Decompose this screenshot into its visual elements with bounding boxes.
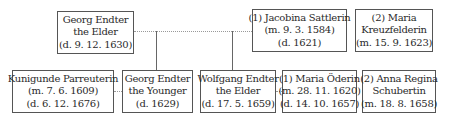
person-marriage-date: (m. 15. 9. 1623) bbox=[356, 37, 432, 50]
person-name: (1) Jacobina Sattlerin bbox=[249, 12, 351, 25]
person-name: Wolfgang Endter bbox=[197, 73, 278, 86]
person-dates: (d. 1629) bbox=[136, 98, 179, 111]
person-marriage-date: (m. 28. 11. 1620) bbox=[278, 85, 360, 98]
person-title: the Elder bbox=[73, 26, 117, 39]
person-title: the Younger bbox=[129, 85, 187, 98]
person-name: Georg Endter bbox=[63, 14, 129, 27]
person-box-maria-kreuzfelderin: (2) Maria Kreuzfelderin (m. 15. 9. 1623) bbox=[355, 9, 433, 52]
person-marriage-date: (m. 7. 6. 1609) bbox=[28, 85, 98, 98]
person-title: the Elder bbox=[216, 85, 260, 98]
person-marriage-date: (m. 9. 3. 1584) bbox=[264, 24, 334, 37]
person-name: (2) Maria bbox=[372, 12, 417, 25]
person-death-date: (d. 6. 12. 1676) bbox=[26, 98, 99, 111]
person-name-cont: Kreuzfelderin bbox=[361, 24, 427, 37]
person-death-date: (d. 1621) bbox=[278, 37, 321, 50]
person-death-date: (d. 14. 10. 1657) bbox=[280, 98, 359, 111]
person-box-kunigunde-parreuterin: Kunigunde Parreuterin (m. 7. 6. 1609) (d… bbox=[12, 70, 114, 113]
marriage-line-kunigunde-georg-younger bbox=[114, 91, 122, 92]
person-box-jacobina-sattlerin: (1) Jacobina Sattlerin (m. 9. 3. 1584) (… bbox=[252, 9, 347, 52]
person-dates: (d. 9. 12. 1630) bbox=[59, 39, 132, 52]
person-box-georg-endter-younger: Georg Endter the Younger (d. 1629) bbox=[122, 70, 193, 113]
descent-line-georg-younger bbox=[156, 31, 157, 70]
person-marriage-date: (m. 18. 8. 1658) bbox=[361, 98, 437, 111]
person-name: (1) Maria Öderin bbox=[279, 73, 360, 86]
person-name: (2) Anna Regina bbox=[360, 73, 438, 86]
descent-line-wolfgang bbox=[232, 31, 233, 70]
person-box-wolfgang-endter-elder: Wolfgang Endter the Elder (d. 17. 5. 165… bbox=[200, 70, 276, 113]
person-name-cont: Schubertin bbox=[372, 85, 425, 98]
marriage-line-georg-jacobina bbox=[134, 31, 252, 32]
person-name: Kunigunde Parreuterin bbox=[8, 73, 118, 86]
person-name: Georg Endter bbox=[125, 73, 191, 86]
person-box-maria-oderin: (1) Maria Öderin (m. 28. 11. 1620) (d. 1… bbox=[282, 70, 357, 113]
person-box-anna-regina-schubertin: (2) Anna Regina Schubertin (m. 18. 8. 16… bbox=[362, 70, 436, 113]
person-dates: (d. 17. 5. 1659) bbox=[201, 98, 274, 111]
person-box-georg-endter-elder: Georg Endter the Elder (d. 9. 12. 1630) bbox=[57, 11, 134, 54]
